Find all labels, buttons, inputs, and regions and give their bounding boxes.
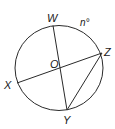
chord-zy <box>67 53 102 110</box>
label-w: W <box>47 12 59 24</box>
circle-diagram: W X Y Z O n° <box>0 0 115 129</box>
label-x: X <box>3 79 12 91</box>
label-y: Y <box>63 114 71 126</box>
label-center-o: O <box>50 58 59 70</box>
label-z: Z <box>103 46 112 58</box>
arc-label-n-degrees: n° <box>80 17 90 28</box>
diameter-xz <box>17 53 102 83</box>
